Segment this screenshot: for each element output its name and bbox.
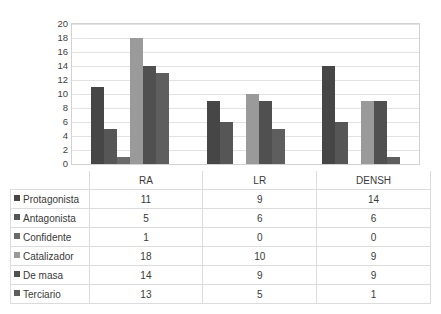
table-corner-cell (11, 171, 90, 190)
bar-slot (322, 24, 335, 164)
table-column-header-lr: LR (203, 171, 317, 190)
legend-row-terciario: Terciario (11, 285, 90, 304)
table-row: De masa1499 (11, 266, 431, 285)
bar-group-lr (207, 24, 285, 164)
bar-protagonista-densh (322, 66, 335, 164)
table-body: Protagonista11914Antagonista566Confident… (11, 190, 431, 304)
legend-swatch-icon (14, 233, 20, 239)
bar-slot (272, 24, 285, 164)
bar-catalizador-densh (361, 101, 374, 164)
table-row: Confidente100 (11, 228, 431, 247)
table-cell-terciario-lr: 5 (203, 285, 317, 304)
table-row: Catalizador18109 (11, 247, 431, 266)
bar-slot (156, 24, 169, 164)
table-column-header-ra: RA (89, 171, 203, 190)
bar-antagonista-densh (335, 122, 348, 164)
bar-slot (104, 24, 117, 164)
table-cell-terciario-ra: 13 (89, 285, 203, 304)
bar-de-masa-ra (143, 66, 156, 164)
bar-protagonista-ra (91, 87, 104, 164)
bar-slot (117, 24, 130, 164)
bar-chart-figure: 20181614121086420 (0, 0, 441, 186)
table-cell-catalizador-ra: 18 (89, 247, 203, 266)
legend-swatch-icon (14, 214, 20, 220)
bar-slot (130, 24, 143, 164)
bar-slot (348, 24, 361, 164)
bar-slot (91, 24, 104, 164)
bar-confidente-ra (117, 157, 130, 164)
legend-row-catalizador: Catalizador (11, 247, 90, 266)
table-column-header-densh: DENSH (317, 171, 431, 190)
table-cell-protagonista-lr: 9 (203, 190, 317, 209)
legend-row-protagonista: Protagonista (11, 190, 90, 209)
table-cell-confidente-ra: 1 (89, 228, 203, 247)
bar-de-masa-lr (259, 101, 272, 164)
chart-title (0, 0, 441, 7)
legend-swatch-icon (14, 271, 20, 277)
table-cell-confidente-lr: 0 (203, 228, 317, 247)
bar-catalizador-lr (246, 94, 259, 164)
y-tick-label: 10 (57, 89, 68, 98)
bar-antagonista-lr (220, 122, 233, 164)
bar-de-masa-densh (374, 101, 387, 164)
table-header-row: RALRDENSH (11, 171, 431, 190)
table-cell-catalizador-lr: 10 (203, 247, 317, 266)
bars-layer (72, 24, 419, 164)
legend-row-confidente: Confidente (11, 228, 90, 247)
y-tick-label: 14 (57, 61, 68, 70)
bar-slot (361, 24, 374, 164)
y-tick-label: 2 (63, 145, 68, 154)
bar-slot (335, 24, 348, 164)
table-cell-de-masa-lr: 9 (203, 266, 317, 285)
table-cell-antagonista-lr: 6 (203, 209, 317, 228)
y-tick-label: 4 (63, 131, 68, 140)
table-cell-confidente-densh: 0 (317, 228, 431, 247)
legend-label: De masa (23, 270, 63, 281)
table-cell-protagonista-ra: 11 (89, 190, 203, 209)
legend-row-de-masa: De masa (11, 266, 90, 285)
bar-slot (259, 24, 272, 164)
bar-group-ra (91, 24, 169, 164)
legend-swatch-icon (14, 290, 20, 296)
table-cell-de-masa-ra: 14 (89, 266, 203, 285)
bar-slot (374, 24, 387, 164)
bar-group-densh (322, 24, 400, 164)
y-tick-label: 0 (63, 159, 68, 168)
bar-terciario-ra (156, 73, 169, 164)
y-tick-label: 12 (57, 75, 68, 84)
bar-protagonista-lr (207, 101, 220, 164)
chart-data-table: RALRDENSH Protagonista11914Antagonista56… (10, 171, 431, 304)
table-cell-terciario-densh: 1 (317, 285, 431, 304)
y-tick-label: 18 (57, 33, 68, 42)
legend-label: Catalizador (23, 251, 74, 262)
legend-swatch-icon (14, 252, 20, 258)
legend-row-antagonista: Antagonista (11, 209, 90, 228)
table-cell-antagonista-ra: 5 (89, 209, 203, 228)
y-tick-label: 6 (63, 117, 68, 126)
table-cell-de-masa-densh: 9 (317, 266, 431, 285)
legend-label: Antagonista (23, 213, 76, 224)
table-row: Protagonista11914 (11, 190, 431, 209)
bar-slot (220, 24, 233, 164)
y-tick-label: 20 (57, 19, 68, 28)
legend-label: Protagonista (23, 194, 79, 205)
y-axis-tick-labels: 20181614121086420 (34, 19, 68, 165)
bar-slot (233, 24, 246, 164)
bar-slot (387, 24, 400, 164)
y-tick-label: 8 (63, 103, 68, 112)
table-cell-protagonista-densh: 14 (317, 190, 431, 209)
legend-label: Terciario (23, 289, 61, 300)
bar-antagonista-ra (104, 129, 117, 164)
bar-terciario-lr (272, 129, 285, 164)
bar-slot (207, 24, 220, 164)
bar-slot (246, 24, 259, 164)
table-cell-antagonista-densh: 6 (317, 209, 431, 228)
bar-catalizador-ra (130, 38, 143, 164)
plot-area (71, 23, 420, 165)
bar-terciario-densh (387, 157, 400, 164)
legend-label: Confidente (23, 232, 71, 243)
table-cell-catalizador-densh: 9 (317, 247, 431, 266)
legend-swatch-icon (14, 195, 20, 201)
gridline (72, 164, 419, 165)
y-tick-label: 16 (57, 47, 68, 56)
